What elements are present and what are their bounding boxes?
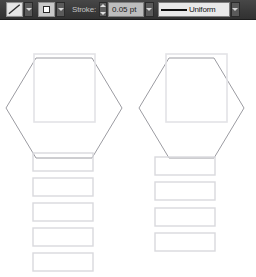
vector-artwork	[0, 20, 256, 277]
stroke-weight-label: Stroke:	[72, 5, 96, 14]
hexagon-group	[6, 58, 244, 158]
hexagon-right[interactable]	[139, 58, 244, 158]
stroke-weight-stepper[interactable]	[99, 2, 107, 17]
inner-square-left[interactable]	[34, 54, 95, 122]
uniform-stroke-profile-line-icon	[159, 2, 189, 17]
stroke-profile-label: Uniform	[189, 5, 216, 14]
inner-square-group	[34, 54, 227, 122]
stroke-weight-input[interactable]: 0.05 pt	[108, 2, 144, 17]
stroke-color-swatch-diagonal-icon	[7, 3, 22, 16]
stroke-profile-select[interactable]: Uniform	[158, 2, 230, 17]
stroke-weight-group: Stroke: 0.05 pt	[65, 2, 154, 18]
list-rect-left-2[interactable]	[33, 178, 93, 196]
stroke-style-button[interactable]	[38, 2, 55, 17]
right-rectangle-column	[155, 157, 215, 251]
list-rect-left-3[interactable]	[33, 203, 93, 221]
list-rect-right-3[interactable]	[155, 208, 215, 226]
chevron-down-icon	[232, 8, 238, 11]
stroke-profile-dropdown-button[interactable]	[231, 2, 240, 17]
stroke-weight-dropdown-button[interactable]	[145, 2, 154, 17]
list-rect-right-1[interactable]	[155, 157, 215, 175]
list-rect-left-1[interactable]	[33, 153, 93, 171]
chevron-down-icon	[26, 8, 32, 11]
list-rect-left-4[interactable]	[33, 228, 93, 246]
stroke-color-swatch-button[interactable]	[6, 2, 23, 17]
stroke-color-dropdown-button[interactable]	[24, 2, 33, 17]
stroke-style-group	[33, 2, 65, 18]
list-rect-right-4[interactable]	[155, 233, 215, 251]
stroke-color-group	[2, 2, 33, 18]
hexagon-left[interactable]	[6, 58, 122, 158]
list-rect-right-2[interactable]	[155, 182, 215, 200]
left-rectangle-column	[33, 153, 93, 271]
chevron-down-icon	[58, 8, 64, 11]
caret-down-icon[interactable]	[100, 12, 106, 15]
stroke-profile-group: Uniform	[154, 2, 240, 18]
caret-up-icon[interactable]	[100, 4, 106, 7]
list-rect-left-5[interactable]	[33, 253, 93, 271]
stroke-control-toolbar: Stroke: 0.05 pt Uniform	[0, 0, 256, 20]
stroke-style-dropdown-button[interactable]	[56, 2, 65, 17]
document-canvas[interactable]	[0, 20, 256, 277]
square-stroke-style-icon	[43, 6, 50, 13]
chevron-down-icon	[146, 8, 152, 11]
